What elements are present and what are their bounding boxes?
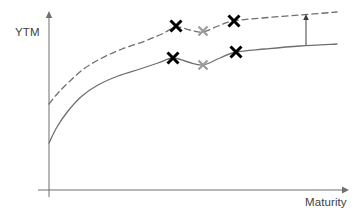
shift-arrow bbox=[303, 14, 309, 45]
yield-curve-figure: YTM Maturity bbox=[0, 0, 363, 217]
marker-upper-right bbox=[229, 16, 240, 27]
y-axis-label: YTM bbox=[15, 26, 40, 38]
y-axis-arrowhead bbox=[46, 11, 52, 18]
series-upper-yield-curve bbox=[49, 12, 337, 104]
curves-group bbox=[49, 12, 337, 143]
series-lower-yield-curve bbox=[49, 44, 337, 143]
x-axis-label: Maturity bbox=[305, 196, 347, 208]
axes-group bbox=[38, 11, 349, 197]
chart-canvas bbox=[0, 0, 363, 217]
markers-group bbox=[168, 16, 242, 70]
x-axis-arrowhead bbox=[342, 187, 349, 194]
marker-upper-left bbox=[171, 21, 182, 32]
annotations-group bbox=[303, 14, 309, 45]
